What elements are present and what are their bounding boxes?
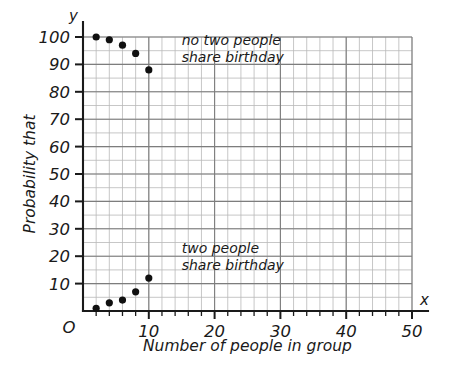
y-tick-label: 60 bbox=[49, 138, 70, 157]
y-axis-name-label: y bbox=[68, 7, 79, 25]
y-tick-label: 40 bbox=[49, 192, 70, 211]
data-point bbox=[93, 305, 100, 312]
annotation-upper-line2: share birthday bbox=[182, 49, 285, 65]
x-axis-name-label: x bbox=[419, 291, 429, 309]
data-point bbox=[119, 296, 126, 303]
y-tick-label: 100 bbox=[39, 28, 71, 47]
data-point bbox=[132, 288, 139, 295]
annotation-lower-line1: two people bbox=[182, 240, 259, 256]
data-point bbox=[106, 36, 113, 43]
data-point bbox=[145, 275, 152, 282]
data-point bbox=[132, 50, 139, 57]
y-tick-label: 30 bbox=[49, 220, 70, 239]
origin-label: O bbox=[63, 318, 76, 337]
x-axis-title: Number of people in group bbox=[143, 337, 352, 355]
birthday-problem-scatter-chart: 102030405060708090100 1020304050 O y x P… bbox=[0, 0, 450, 367]
annotation-upper-line1: no two people bbox=[182, 32, 281, 48]
data-point bbox=[106, 299, 113, 306]
y-tick-label: 70 bbox=[49, 110, 70, 129]
x-tick-label: 50 bbox=[402, 322, 423, 341]
y-tick-label: 90 bbox=[49, 55, 70, 74]
data-point bbox=[145, 66, 152, 73]
data-point bbox=[119, 42, 126, 49]
y-tick-label: 20 bbox=[49, 247, 70, 266]
y-tick-label: 10 bbox=[49, 275, 70, 294]
y-tick-label: 50 bbox=[49, 165, 70, 184]
annotation-lower-line2: share birthday bbox=[182, 257, 285, 273]
y-axis-title: Probability that bbox=[21, 114, 39, 234]
y-tick-label: 80 bbox=[49, 83, 70, 102]
data-point bbox=[93, 33, 100, 40]
annotation-upper: no two people share birthday bbox=[182, 32, 285, 65]
chart-figure: 102030405060708090100 1020304050 O y x P… bbox=[0, 0, 450, 367]
